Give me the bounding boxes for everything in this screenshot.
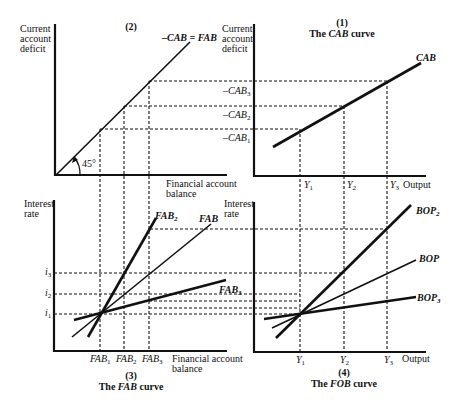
bop2-label: BOP2 <box>415 205 440 218</box>
panel-3-y-label-line2: rate <box>24 208 40 219</box>
panel-3-title: The FAB curve <box>99 381 164 392</box>
tick-neg-cab3: –CAB3 <box>222 85 251 98</box>
panel-1-tick-y1: Y1 <box>304 179 314 192</box>
panel-4-tick-y2: Y2 <box>340 354 350 367</box>
panel-1-tick-y2: Y2 <box>347 179 357 192</box>
panel-2-line-label: –CAB = FAB <box>161 32 217 43</box>
tick-fab2: FAB2 <box>115 353 137 366</box>
panel-3-fab-curve: Interest rate FAB2 FAB FAB3 i3 i2 i1 FAB… <box>24 198 243 392</box>
cab-line <box>273 63 421 147</box>
panel-4-y-label-line2: rate <box>224 208 240 219</box>
panel-2-45-degree-line <box>56 42 190 175</box>
panel-3-x-label-line2: balance <box>172 363 203 374</box>
panel-4-x-label: Output <box>402 353 430 364</box>
fab2-label: FAB2 <box>154 210 178 223</box>
tick-i2: i2 <box>45 287 52 300</box>
bop3-label: BOP3 <box>416 292 441 305</box>
panel-1-x-label: Output <box>403 179 431 190</box>
tick-neg-cab1: –CAB1 <box>222 132 251 145</box>
panel-2-cab-fab-identity: (2) Current account deficit –CAB = FAB 4… <box>20 21 237 199</box>
panel-4-tick-y3: Y3 <box>384 354 394 367</box>
bop-label: BOP <box>418 253 440 264</box>
panel-1-title: The CAB curve <box>309 28 375 39</box>
panel-1-cab-curve: (1) The CAB curve Current account defici… <box>222 17 436 192</box>
fab-label: FAB <box>198 213 218 224</box>
panel-2-y-label-line3: deficit <box>20 43 46 54</box>
tick-i3: i3 <box>45 266 52 279</box>
tick-fab3: FAB3 <box>141 353 163 366</box>
panel-4-title: The FOB curve <box>311 378 378 389</box>
panel-1-y-label-line3: deficit <box>222 43 248 54</box>
angle-label: 45° <box>82 158 96 169</box>
tick-fab1: FAB1 <box>89 353 111 366</box>
tick-neg-cab2: –CAB2 <box>222 109 251 122</box>
four-panel-diagram: (2) Current account deficit –CAB = FAB 4… <box>0 0 457 407</box>
tick-i1: i1 <box>45 307 52 320</box>
panel-1-tick-y3: Y3 <box>390 179 400 192</box>
panel-2-x-label-line2: balance <box>166 188 197 199</box>
fab3-label: FAB3 <box>218 284 242 297</box>
cab-line-label: CAB <box>416 52 436 63</box>
panel-2-number: (2) <box>125 21 137 33</box>
panel-4-tick-y1: Y1 <box>296 354 306 367</box>
